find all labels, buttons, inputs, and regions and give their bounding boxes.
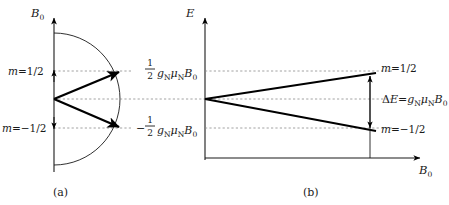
splitting-line-upper [205,73,376,99]
panel-a-axis-label: B0 [30,6,44,22]
lower-energy-numerator: 1 [147,115,153,125]
panel-a-axis-label-sub: 0 [39,13,44,22]
lower-energy-expression: gNμNB0 [157,124,197,139]
upper-energy-denominator: 2 [147,71,153,81]
upper-energy-expression: gNμNB0 [157,67,197,82]
panel-b-field-axis-label: B0 [418,163,432,179]
delta-E-label: ΔE=gNμNB0 [382,93,448,108]
panel-b-caption: (b) [303,186,319,199]
zeeman-splitting-figure: B0 m=1/2 m=−1/2 (a) E B0 [0,0,449,205]
panel-a-axis-label-main: B [30,6,39,20]
panel-b-field-axis-label-main: B [418,163,427,177]
panel-a-caption: (a) [53,186,68,199]
lower-vector-arrow [54,99,119,127]
lower-energy-denominator: 2 [147,128,153,138]
upper-energy-label: 1 2 gNμNB0 [145,58,197,82]
lower-energy-label: − 1 2 gNμNB0 [136,115,197,139]
upper-vector-arrow [54,72,119,99]
panel-b-state-label-up: m=1/2 [381,62,417,74]
panel-b-state-label-down: m=−1/2 [381,123,425,135]
panel-a-label-m-up: m=1/2 [8,65,44,77]
upper-energy-numerator: 1 [147,58,153,68]
panel-a: B0 m=1/2 m=−1/2 (a) [2,6,208,199]
splitting-line-lower [205,99,376,131]
lower-energy-sign: − [136,122,145,135]
panel-b-field-axis-label-sub: 0 [427,170,432,179]
panel-a-label-m-down: m=−1/2 [2,122,46,134]
figure-canvas: B0 m=1/2 m=−1/2 (a) E B0 [0,0,449,205]
panel-b-energy-axis-label: E [185,6,195,20]
panel-b: E B0 m=1/2 m=−1/2 1 2 gNμNB0 − 1 2 [136,6,448,199]
